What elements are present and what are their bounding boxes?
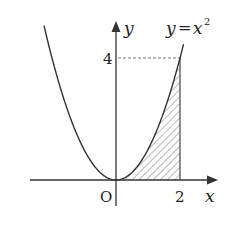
diagram-canvas: y x O 2 4 y = x 2 <box>0 0 242 236</box>
function-label-y: y <box>165 18 176 38</box>
origin-label: O <box>100 188 112 206</box>
x-axis-arrow-icon <box>207 176 218 185</box>
y-axis-label: y <box>123 18 134 38</box>
y-axis-arrow-icon <box>112 21 121 32</box>
x-axis-label: x <box>205 186 215 206</box>
shaded-region <box>116 58 180 180</box>
x-tick-label-2: 2 <box>175 188 185 206</box>
function-label-x: x <box>193 18 203 38</box>
function-label-exponent: 2 <box>204 16 210 27</box>
function-label-equals: = <box>178 18 191 37</box>
y-tick-label-4: 4 <box>103 50 113 68</box>
function-label: y = x 2 <box>165 16 210 38</box>
